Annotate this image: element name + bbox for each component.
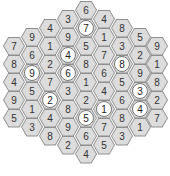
cell-number: 5 — [83, 41, 89, 52]
hex-cell[interactable]: 4 — [93, 82, 115, 101]
hex-cell[interactable]: 6 — [21, 46, 43, 65]
cell-number: 5 — [101, 140, 107, 151]
cell-number: 8 — [119, 23, 125, 34]
cell-inner: 6 — [58, 65, 78, 82]
cell-inner: 4 — [94, 11, 114, 28]
cell-inner: 8 — [40, 128, 60, 145]
cell-inner: 5 — [130, 29, 150, 46]
cell-inner: 2 — [40, 56, 60, 73]
circled-number: 4 — [60, 47, 76, 63]
cell-number: 2 — [154, 95, 160, 106]
hex-cell[interactable]: 3 — [21, 118, 43, 137]
given-cell[interactable]: 2 — [39, 91, 61, 110]
cell-number: 1 — [137, 122, 143, 133]
cell-inner: 4 — [130, 101, 150, 118]
hex-cell[interactable]: 9 — [21, 28, 43, 47]
cell-number: 2 — [65, 140, 71, 151]
cell-number: 6 — [83, 5, 89, 16]
given-cell[interactable]: 8 — [111, 55, 133, 74]
hex-cell[interactable]: 7 — [3, 37, 25, 56]
cell-number: 8 — [11, 59, 17, 70]
cell-number: 2 — [83, 95, 89, 106]
hex-cell[interactable]: 3 — [111, 37, 133, 56]
hex-cell[interactable]: 5 — [3, 109, 25, 128]
cell-number: 4 — [101, 86, 107, 97]
cell-number: 3 — [65, 14, 71, 25]
cell-number: 8 — [154, 77, 160, 88]
circled-number: 9 — [24, 65, 40, 81]
given-cell[interactable]: 5 — [75, 109, 97, 128]
hex-cell[interactable]: 8 — [75, 55, 97, 74]
hex-cell[interactable]: 3 — [111, 127, 133, 146]
cell-number: 5 — [119, 77, 125, 88]
cell-inner: 8 — [4, 56, 24, 73]
hex-cell[interactable]: 3 — [57, 82, 79, 101]
hex-cell[interactable]: 5 — [111, 73, 133, 92]
hex-cell[interactable]: 5 — [93, 136, 115, 155]
circled-number: 7 — [78, 20, 94, 36]
cell-number: 8 — [119, 113, 125, 124]
hex-cell[interactable]: 9 — [3, 91, 25, 110]
given-cell[interactable]: 7 — [75, 19, 97, 38]
hex-cell[interactable]: 1 — [21, 100, 43, 119]
cell-number: 7 — [11, 41, 17, 52]
hex-cell[interactable]: 7 — [93, 118, 115, 137]
hex-cell[interactable]: 4 — [39, 109, 61, 128]
hex-cell[interactable]: 6 — [75, 127, 97, 146]
hex-cell[interactable]: 4 — [75, 145, 97, 164]
hex-cell[interactable]: 2 — [57, 136, 79, 155]
hex-cell[interactable]: 1 — [75, 73, 97, 92]
hex-cell[interactable]: 2 — [75, 91, 97, 110]
cell-inner: 2 — [40, 92, 60, 109]
hex-cell[interactable]: 8 — [39, 127, 61, 146]
hex-cell[interactable]: 1 — [93, 28, 115, 47]
given-cell[interactable]: 9 — [21, 64, 43, 83]
cell-number: 6 — [29, 50, 35, 61]
cell-number: 9 — [154, 41, 160, 52]
cell-inner: 5 — [76, 38, 96, 55]
cell-inner: 9 — [58, 29, 78, 46]
hex-cell[interactable]: 4 — [39, 19, 61, 38]
cell-inner: 4 — [4, 74, 24, 91]
given-cell[interactable]: 1 — [93, 100, 115, 119]
hex-cell[interactable]: 4 — [3, 73, 25, 92]
hex-cell[interactable]: 8 — [57, 100, 79, 119]
hex-cell[interactable]: 8 — [111, 19, 133, 38]
given-cell[interactable]: 4 — [57, 46, 79, 65]
hex-cell[interactable]: 7 — [39, 73, 61, 92]
cell-number: 2 — [47, 59, 53, 70]
given-cell[interactable]: 6 — [57, 64, 79, 83]
hex-cell[interactable]: 1 — [39, 37, 61, 56]
cell-inner: 1 — [94, 101, 114, 118]
hex-cell[interactable]: 2 — [39, 55, 61, 74]
hex-cell[interactable]: 8 — [111, 109, 133, 128]
hex-cell[interactable]: 3 — [57, 10, 79, 29]
cell-inner: 2 — [130, 47, 150, 64]
cell-number: 9 — [29, 32, 35, 43]
hex-cell[interactable]: 9 — [57, 118, 79, 137]
cell-inner: 7 — [94, 47, 114, 64]
cell-inner: 1 — [40, 38, 60, 55]
hex-cell[interactable]: 8 — [3, 55, 25, 74]
hex-cell[interactable]: 6 — [75, 1, 97, 20]
cell-inner: 1 — [130, 119, 150, 136]
hex-cell[interactable]: 4 — [93, 10, 115, 29]
hex-cell[interactable]: 5 — [75, 37, 97, 56]
cell-inner: 5 — [94, 137, 114, 154]
cell-inner: 9 — [147, 38, 167, 55]
cell-inner: 6 — [94, 65, 114, 82]
cell-inner: 6 — [22, 47, 42, 64]
hex-cell[interactable]: 9 — [57, 28, 79, 47]
hex-cell[interactable]: 7 — [93, 46, 115, 65]
cell-number: 9 — [65, 122, 71, 133]
hex-cell[interactable]: 5 — [21, 82, 43, 101]
cell-number: 8 — [83, 59, 89, 70]
cell-inner: 6 — [76, 2, 96, 19]
hex-cell[interactable]: 6 — [93, 64, 115, 83]
cell-number: 7 — [154, 113, 160, 124]
circled-number: 1 — [96, 101, 112, 117]
cell-number: 5 — [137, 32, 143, 43]
hex-cell[interactable]: 6 — [111, 91, 133, 110]
cell-inner: 3 — [112, 128, 132, 145]
circled-number: 5 — [78, 110, 94, 126]
